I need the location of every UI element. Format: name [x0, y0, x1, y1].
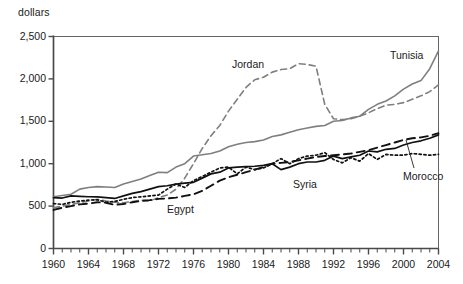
series-line-morocco: [54, 153, 439, 205]
chart-figure: dollars 05001,0001,5002,0002,500 1960196…: [0, 0, 463, 284]
series-line-tunisia: [54, 51, 439, 197]
series-label-jordan: Jordan: [232, 58, 264, 70]
y-tick-label: 1,500: [4, 114, 46, 126]
x-tick-label: 2004: [417, 258, 461, 270]
y-tick-label: 500: [4, 199, 46, 211]
series-label-morocco: Morocco: [403, 170, 443, 182]
series-label-egypt: Egypt: [167, 203, 194, 215]
y-tick-label: 0: [4, 242, 46, 254]
chart-plot-area: [0, 0, 463, 284]
series-label-syria: Syria: [293, 178, 317, 190]
series-label-tunisia: Tunisia: [390, 49, 423, 61]
y-tick-label: 2,500: [4, 30, 46, 42]
series-line-jordan: [54, 64, 439, 208]
y-tick-label: 1,000: [4, 157, 46, 169]
y-tick-label: 2,000: [4, 72, 46, 84]
